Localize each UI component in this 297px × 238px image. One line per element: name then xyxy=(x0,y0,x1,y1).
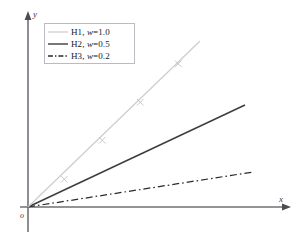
legend-item-h2: H2, w=0.5 xyxy=(48,38,130,50)
series-markers-h1 xyxy=(61,61,182,183)
legend-line-sample-h2 xyxy=(48,40,68,48)
legend-label-h1: H1, w=1.0 xyxy=(71,27,110,37)
legend-series-name-h2: H2 xyxy=(71,39,82,49)
legend-param-value-h2: 0.5 xyxy=(98,39,110,49)
legend-box: H1, w=1.0 H2, w=0.5 H3, w=0.2 xyxy=(44,23,135,64)
legend-label-h3: H3, w=0.2 xyxy=(71,51,110,61)
legend-line-sample-h1 xyxy=(48,28,68,36)
x-axis-arrowhead xyxy=(282,204,291,211)
series-line-h1 xyxy=(28,41,200,207)
x-axis-label: x xyxy=(279,195,283,204)
y-axis-arrowhead xyxy=(25,11,32,20)
origin-label: o xyxy=(20,212,24,220)
legend-param-value-h1: 1.0 xyxy=(98,27,110,37)
legend-series-name-h3: H3 xyxy=(71,51,82,61)
legend-item-h1: H1, w=1.0 xyxy=(48,26,130,38)
legend-series-name-h1: H1 xyxy=(71,27,82,37)
legend-label-h2: H2, w=0.5 xyxy=(71,39,110,49)
legend-line-sample-h3 xyxy=(48,52,68,60)
y-axis-label: y xyxy=(33,10,37,19)
chart-figure: y x o H1, w=1.0 H2, w=0.5 xyxy=(0,0,297,238)
legend-item-h3: H3, w=0.2 xyxy=(48,50,130,62)
series-line-h2 xyxy=(28,105,245,207)
legend-param-value-h3: 0.2 xyxy=(98,51,110,61)
